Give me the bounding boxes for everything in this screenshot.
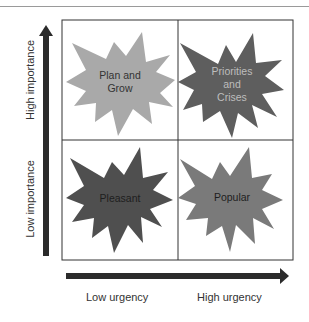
label-line: Popular bbox=[197, 191, 267, 204]
x-axis-high-label: High urgency bbox=[197, 291, 262, 303]
quadrant-label-plan-and-grow: Plan and Grow bbox=[85, 69, 155, 95]
label-line: Crises bbox=[197, 91, 267, 104]
x-axis-low-label: Low urgency bbox=[86, 291, 148, 303]
y-axis-low-label: Low importance bbox=[24, 157, 36, 241]
label-line: Grow bbox=[85, 82, 155, 95]
label-line: Priorities bbox=[197, 65, 267, 78]
label-line: Plan and bbox=[85, 69, 155, 82]
vertical-arrow-icon bbox=[39, 25, 53, 256]
quadrant-label-popular: Popular bbox=[197, 191, 267, 204]
y-axis-high-label: High importance bbox=[24, 40, 36, 120]
quadrant-label-pleasant: Pleasant bbox=[85, 192, 155, 205]
quadrant-label-priorities-and-crises: Priorities and Crises bbox=[197, 65, 267, 104]
label-line: and bbox=[197, 78, 267, 91]
label-line: Pleasant bbox=[85, 192, 155, 205]
horizontal-arrow-icon bbox=[66, 268, 289, 284]
matrix-graphic bbox=[0, 0, 309, 322]
